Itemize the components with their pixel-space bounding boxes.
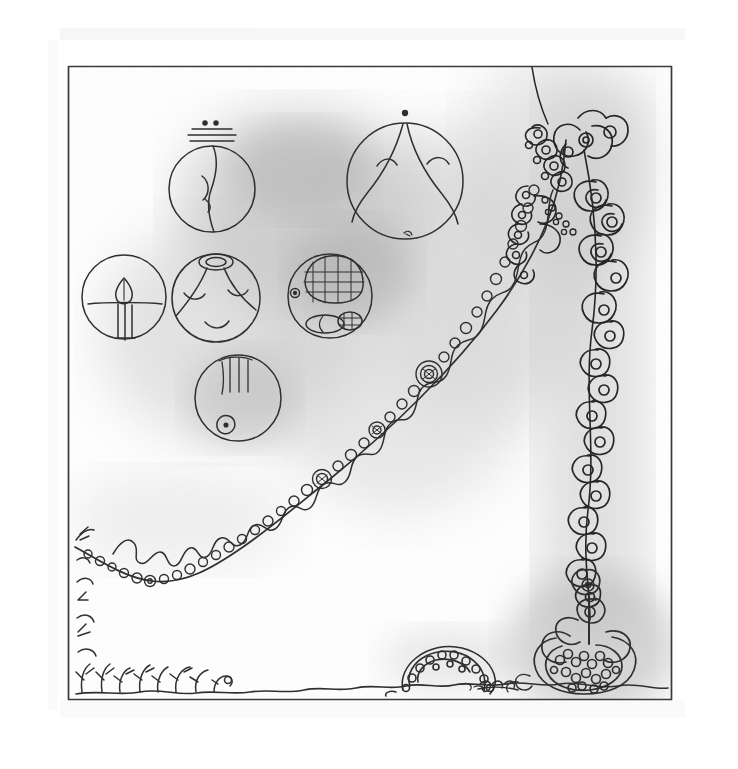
edge-sprigs-bottom xyxy=(76,664,232,692)
scribble-cluster-top xyxy=(526,125,573,191)
scribble-spiral-chain xyxy=(566,150,628,620)
motif-circle-sleeping-face xyxy=(172,254,260,342)
motif-circle-crosshatch xyxy=(288,254,372,338)
scribble-stem xyxy=(531,60,548,124)
rooted-basin xyxy=(507,570,636,694)
vertical-scribble-band xyxy=(506,60,628,620)
motif-circle-large-chevron xyxy=(347,111,463,239)
motif-circle-hatch-dot xyxy=(195,355,281,441)
ink-layer xyxy=(0,0,738,769)
motif-circle-leaf-pillars xyxy=(82,255,166,340)
edge-sprigs-left xyxy=(76,527,96,656)
motif-circle-profile-head xyxy=(169,121,255,232)
scribble-tendril-left xyxy=(506,186,560,284)
beaded-sweep xyxy=(75,140,566,582)
artboard: Hand-drawn pencil and ink composition gr… xyxy=(0,0,738,769)
scalloped-sweep xyxy=(113,190,553,566)
scribble-bead-trail xyxy=(542,197,576,235)
curve-bead-group xyxy=(84,185,539,587)
scribble-rosette-upper xyxy=(554,111,628,169)
